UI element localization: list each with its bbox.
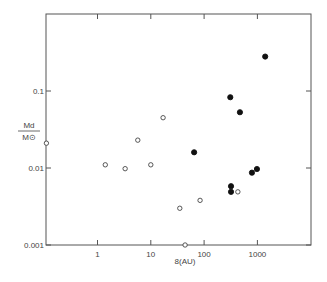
filled-circle-marker bbox=[263, 54, 268, 59]
x-tick-label: 100 bbox=[197, 250, 211, 259]
x-axis-label: 8(AU) bbox=[175, 257, 196, 266]
open-circle-marker bbox=[183, 243, 187, 247]
y-axis-label-denominator: M⊙ bbox=[22, 133, 36, 142]
open-circle-marker bbox=[136, 138, 140, 142]
open-circle-marker bbox=[178, 206, 182, 210]
y-axis-label: Md M⊙ bbox=[18, 121, 40, 142]
y-tick-label: 0.01 bbox=[28, 164, 44, 173]
x-tick-label: 10 bbox=[146, 250, 155, 259]
filled-circle-marker bbox=[228, 95, 233, 100]
open-circle-marker bbox=[161, 116, 165, 120]
open-circle-marker bbox=[149, 163, 153, 167]
filled-circle-marker bbox=[254, 166, 259, 171]
filled-circle-marker bbox=[237, 110, 242, 115]
data-points bbox=[44, 54, 268, 247]
open-circle-marker bbox=[198, 198, 202, 202]
x-tick-label: 1000 bbox=[249, 250, 267, 259]
x-tick-label: 1 bbox=[95, 250, 100, 259]
scatter-chart: 11010010000.10.010.001 8(AU) Md M⊙ bbox=[0, 0, 327, 282]
y-tick-label: 0.1 bbox=[33, 87, 45, 96]
open-circle-marker bbox=[103, 163, 107, 167]
open-circle-marker bbox=[236, 190, 240, 194]
y-axis-label-numerator: Md bbox=[23, 121, 34, 130]
filled-circle-marker bbox=[228, 189, 233, 194]
open-circle-marker bbox=[123, 166, 127, 170]
axis-tick-labels: 11010010000.10.010.001 bbox=[24, 87, 267, 259]
filled-circle-marker bbox=[228, 184, 233, 189]
filled-circle-marker bbox=[192, 150, 197, 155]
filled-circle-marker bbox=[249, 170, 254, 175]
y-tick-label: 0.001 bbox=[24, 241, 45, 250]
open-circle-marker bbox=[44, 141, 48, 145]
